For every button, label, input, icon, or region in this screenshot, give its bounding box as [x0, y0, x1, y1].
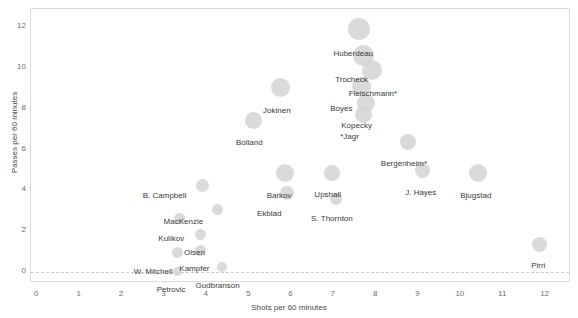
data-point[interactable] — [271, 78, 290, 97]
data-point-label: Ekblad — [257, 210, 281, 218]
data-point-label: Trocheck — [335, 76, 368, 84]
data-point-label: MacKenzie — [164, 218, 204, 226]
x-axis-tick-label: 2 — [119, 290, 123, 298]
data-point[interactable] — [245, 112, 262, 129]
x-axis-tick-label: 5 — [246, 290, 250, 298]
data-point[interactable] — [195, 229, 206, 240]
x-axis-tick-label: 6 — [288, 290, 292, 298]
x-axis-tick-label: 3 — [161, 290, 165, 298]
y-axis-tick-label: 2 — [14, 226, 26, 234]
data-point-label: W. Mitchell — [134, 268, 173, 276]
data-point-label: *Jagr — [340, 133, 359, 141]
x-axis-tick-label: 7 — [331, 290, 335, 298]
data-point-label: Olsen — [184, 249, 205, 257]
data-point[interactable] — [324, 165, 340, 181]
data-point[interactable] — [196, 179, 209, 192]
data-point-label: Huberdeau — [333, 50, 373, 58]
data-point-label: Upshall — [314, 191, 341, 199]
data-point[interactable] — [217, 262, 227, 272]
x-axis-tick-label: 1 — [76, 290, 80, 298]
data-point-label: J. Hayes — [405, 189, 436, 197]
data-point[interactable] — [400, 134, 416, 150]
x-axis-tick-label: 9 — [415, 290, 419, 298]
scatter-chart: HuberdeauTrocheckFleischmann*BoyesKopeck… — [0, 0, 578, 318]
y-axis-tick-label: 10 — [14, 63, 26, 71]
y-axis-tick-label: 12 — [14, 22, 26, 30]
data-point[interactable] — [276, 164, 294, 182]
data-point[interactable] — [172, 247, 183, 258]
x-axis-tick-label: 8 — [373, 290, 377, 298]
plot-area: HuberdeauTrocheckFleischmann*BoyesKopeck… — [30, 8, 570, 282]
data-point-label: S. Thornton — [311, 215, 353, 223]
data-point-label: Gudbranson — [196, 282, 240, 290]
data-point-label: Bjugstad — [460, 192, 491, 200]
data-point-label: Kulikov — [158, 235, 184, 243]
data-point[interactable] — [469, 164, 487, 182]
data-point-label: B. Campbell — [143, 192, 187, 200]
data-point[interactable] — [532, 237, 547, 252]
x-axis-tick-label: 4 — [204, 290, 208, 298]
data-point-label: Bolland — [236, 139, 263, 147]
x-axis-tick-label: 10 — [455, 290, 464, 298]
data-point-label: Barkov — [267, 192, 292, 200]
x-axis-tick-label: 12 — [540, 290, 549, 298]
data-point-label: Kampfer — [179, 265, 209, 273]
data-point-label: Jokinen — [263, 107, 291, 115]
x-axis-tick-label: 0 — [34, 290, 38, 298]
data-point-label: Fleischmann* — [349, 90, 397, 98]
data-point[interactable] — [348, 18, 370, 40]
data-point-label: Kopecky — [341, 122, 372, 130]
data-point-label: Bergenheim* — [381, 160, 427, 168]
data-point[interactable] — [212, 204, 223, 215]
y-axis-title: Passes per 60 minutes — [10, 73, 19, 193]
data-point-label: Boyes — [330, 105, 352, 113]
zero-reference-line — [31, 272, 569, 273]
x-axis-tick-label: 11 — [498, 290, 506, 298]
y-axis-tick-label: 0 — [14, 267, 26, 275]
x-axis-title: Shots per 60 minutes — [0, 303, 578, 312]
data-point-label: Pirri — [531, 262, 545, 270]
